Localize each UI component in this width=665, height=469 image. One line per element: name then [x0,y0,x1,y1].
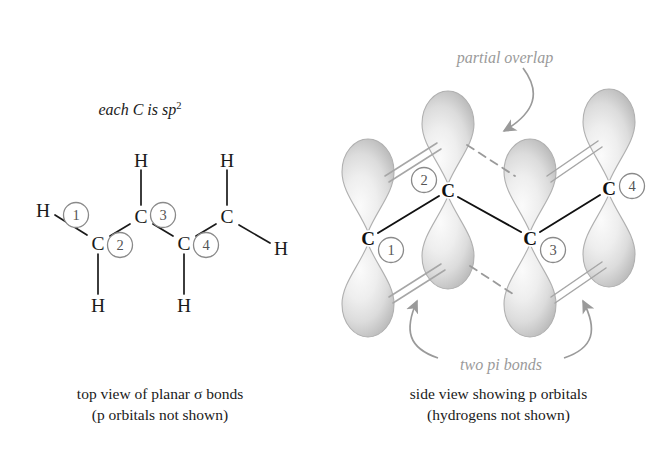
right-number-badge-2: 2 [412,168,437,193]
right-atom-C4: C [602,178,616,199]
right-number-3: 3 [549,242,556,258]
pi-bond-lines [385,141,606,303]
left-atom-H6: H [274,238,288,259]
partial-overlap-arrow [504,68,533,131]
left-caption-line-1: top view of planar σ bonds [0,384,320,405]
right-panel-caption: side view showing p orbitals (hydrogens … [332,384,665,426]
right-caption-line-1: side view showing p orbitals [332,384,665,405]
partial-overlap-label: partial overlap [456,49,553,67]
two-pi-bonds-arrow-left [410,301,438,358]
partial-overlap-dash-lower [470,266,516,296]
left-number-1: 1 [72,207,79,223]
left-number-badge-1: 1 [64,203,89,228]
left-atom-H4: H [177,295,191,316]
left-number-badge-3: 3 [151,203,176,228]
sigma-bond-C2-C3 [458,197,521,232]
left-atom-H1: H [36,200,50,221]
right-number-badge-3: 3 [541,238,566,263]
left-number-3: 3 [159,207,166,223]
left-atom-C2: C [134,206,147,227]
sigma-bond-lines [378,195,600,233]
right-number-1: 1 [387,242,394,258]
left-atom-H5: H [220,150,234,171]
figure-root: each C is sp2 [0,0,665,469]
two-pi-bonds-label: two pi bonds [460,356,542,374]
left-caption-line-2: (p orbitals not shown) [0,405,320,426]
right-orbital-structure: C C C C 1 2 3 [342,49,645,374]
left-atom-C1: C [91,233,104,254]
p-lobe-C3-top [504,139,556,232]
right-atom-C2: C [441,180,455,201]
left-atom-H3: H [134,150,148,171]
left-number-badge-2: 2 [108,233,133,258]
left-atom-H2: H [91,295,105,316]
right-number-badge-4: 4 [620,174,645,199]
p-lobe-C4-bottom [583,194,635,287]
sigma-bond-C1-C2 [378,196,439,233]
right-number-badge-1: 1 [379,238,404,263]
sigma-bond-C3-C4 [540,195,600,232]
annotation-two-pi-bonds: two pi bonds [410,301,592,374]
left-number-4: 4 [202,237,210,253]
left-structure: C C C C H H H H H H 1 [36,150,288,316]
left-atom-C4: C [220,206,233,227]
right-atom-C3: C [523,228,537,249]
p-lobe-C1-top [342,139,394,232]
left-ch-bonds [55,170,270,294]
right-number-2: 2 [420,172,427,188]
left-number-badge-4: 4 [194,233,219,258]
left-atom-C3: C [177,233,190,254]
right-atom-C1: C [361,228,375,249]
p-lobe-C2-bottom [422,196,474,289]
left-panel-caption: top view of planar σ bonds (p orbitals n… [0,384,320,426]
left-number-2: 2 [116,237,123,253]
right-caption-line-2: (hydrogens not shown) [332,405,665,426]
p-lobe-C4-top [583,89,635,182]
right-number-4: 4 [628,178,636,194]
two-pi-bonds-arrow-right [564,301,591,358]
